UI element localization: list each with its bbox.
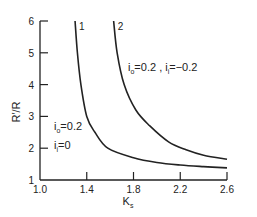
chart: 1.01.41.82.22.6123456 12 R′/R Ks io=0.2 …	[0, 0, 257, 217]
x-tick-label: 1.0	[33, 184, 47, 195]
curve-1-io-label: io=0.2	[54, 120, 82, 134]
x-tick-label: 2.2	[173, 184, 187, 195]
y-tick-label: 1	[28, 175, 34, 186]
curve-2-number-label: 2	[118, 21, 124, 32]
x-tick-label: 1.8	[127, 184, 141, 195]
axes	[40, 21, 227, 180]
ticks: 1.01.41.82.22.6123456	[28, 16, 234, 195]
y-tick-label: 6	[28, 16, 34, 27]
x-tick-label: 1.4	[80, 184, 94, 195]
curve-2	[114, 21, 227, 159]
y-tick-label: 2	[28, 143, 34, 154]
curve-2-condition-label: io=0.2 , ii=−0.2	[128, 61, 197, 75]
curves: 12	[75, 21, 227, 168]
x-tick-label: 2.6	[220, 184, 234, 195]
curve-1	[75, 21, 227, 168]
y-tick-label: 4	[28, 80, 34, 91]
curve-1-number-label: 1	[79, 21, 85, 32]
x-axis-label: Ks	[123, 195, 134, 209]
curve-1-ii-label: ii=0	[54, 139, 71, 153]
y-axis-label: R′/R	[10, 101, 22, 122]
y-tick-label: 5	[28, 48, 34, 59]
y-tick-label: 3	[28, 111, 34, 122]
